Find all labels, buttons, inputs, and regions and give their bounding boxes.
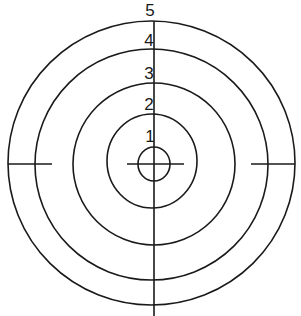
ring-label: 1 <box>145 127 154 146</box>
ring-label: 5 <box>145 1 154 20</box>
ring-labels: 54321 <box>144 1 154 146</box>
target-diagram: 54321 <box>0 0 301 316</box>
ring-label: 2 <box>144 95 153 114</box>
ring-label: 3 <box>144 64 153 83</box>
ring-label: 4 <box>144 31 153 50</box>
